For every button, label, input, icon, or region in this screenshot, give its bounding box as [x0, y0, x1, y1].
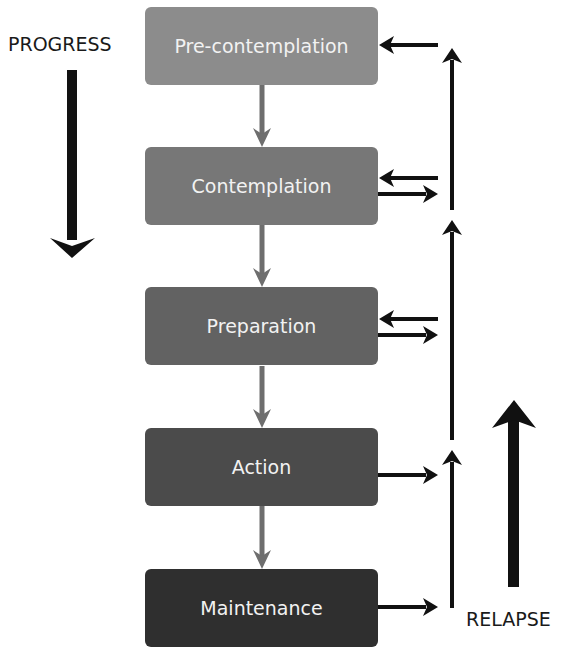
- down-arrow-icon: [253, 225, 271, 287]
- relapse-arrow-icon: [492, 400, 536, 587]
- up-arrow-icon: [442, 450, 462, 608]
- down-arrow-icon: [253, 506, 271, 569]
- right-arrow-icon: [378, 466, 438, 484]
- relapse-arrows: [378, 36, 536, 616]
- up-arrow-icon: [442, 48, 462, 210]
- down-arrow-icon: [253, 85, 271, 147]
- left-arrow-icon: [379, 310, 438, 328]
- right-arrow-icon: [378, 598, 438, 616]
- stages-of-change-diagram: PROGRESS RELAPSE Pre-contemplation Conte…: [0, 0, 569, 650]
- up-arrow-icon: [442, 220, 462, 440]
- left-arrow-icon: [379, 169, 438, 187]
- arrows-layer: [0, 0, 569, 650]
- stage-connector-arrows: [253, 85, 271, 569]
- progress-arrow-icon: [50, 70, 95, 258]
- right-arrow-icon: [378, 326, 438, 344]
- down-arrow-icon: [253, 366, 271, 428]
- left-arrow-icon: [379, 36, 438, 54]
- right-arrow-icon: [378, 185, 438, 203]
